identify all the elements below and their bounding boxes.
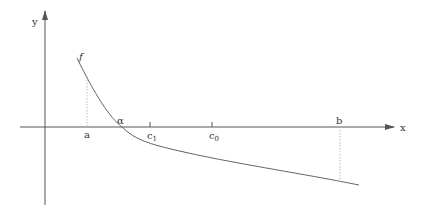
label-c1: c1 bbox=[147, 130, 157, 143]
label-b: b bbox=[336, 115, 342, 126]
label-a: a bbox=[84, 129, 90, 140]
label-c0: c0 bbox=[209, 130, 219, 143]
diagram-canvas: y x f a α c1 c0 b bbox=[0, 0, 423, 216]
x-axis-label: x bbox=[400, 122, 406, 133]
y-axis-label: y bbox=[31, 16, 38, 27]
curve-label: f bbox=[78, 51, 85, 62]
label-alpha: α bbox=[117, 115, 124, 126]
